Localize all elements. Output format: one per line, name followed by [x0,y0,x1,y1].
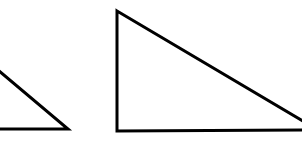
left-right-triangle [0,55,68,129]
right-right-triangle [117,11,302,131]
diagram-canvas [0,0,302,142]
